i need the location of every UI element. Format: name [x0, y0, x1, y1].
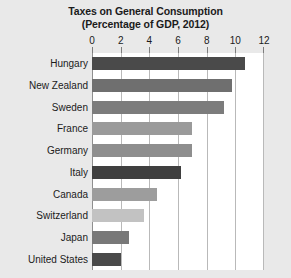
plot-wrap — [92, 53, 264, 270]
category-label-new-zealand: New Zealand — [0, 79, 88, 92]
bar-italy — [92, 166, 181, 179]
gridline-12 — [263, 53, 264, 270]
plot-area — [92, 53, 264, 270]
bar-chart-figure: Taxes on General Consumption (Percentage… — [0, 0, 291, 278]
x-tick-label-4: 4 — [147, 35, 153, 47]
bar-sweden — [92, 101, 224, 114]
category-label-germany: Germany — [0, 144, 88, 157]
category-label-united-states: United States — [0, 253, 88, 266]
bar-switzerland — [92, 209, 144, 222]
category-label-canada: Canada — [0, 188, 88, 201]
chart-subtitle: (Percentage of GDP, 2012) — [0, 18, 291, 31]
x-tick-label-10: 10 — [230, 35, 241, 47]
gridline-10 — [235, 53, 236, 270]
x-tick-label-0: 0 — [89, 35, 95, 47]
category-label-switzerland: Switzerland — [0, 209, 88, 222]
x-tick-label-2: 2 — [118, 35, 124, 47]
x-tick-label-6: 6 — [175, 35, 181, 47]
x-axis-tick-labels: 024681012 — [92, 35, 264, 47]
category-label-japan: Japan — [0, 231, 88, 244]
category-label-italy: Italy — [0, 166, 88, 179]
bar-new-zealand — [92, 79, 232, 92]
chart-title-block: Taxes on General Consumption (Percentage… — [0, 5, 291, 31]
category-axis-labels: HungaryNew ZealandSwedenFranceGermanyIta… — [0, 53, 88, 270]
bar-japan — [92, 231, 129, 244]
bar-united-states — [92, 253, 121, 266]
category-label-france: France — [0, 122, 88, 135]
x-tick-label-8: 8 — [204, 35, 210, 47]
bar-france — [92, 122, 192, 135]
x-tick-label-12: 12 — [258, 35, 269, 47]
bar-germany — [92, 144, 192, 157]
category-label-hungary: Hungary — [0, 57, 88, 70]
chart-title: Taxes on General Consumption — [0, 5, 291, 18]
category-label-sweden: Sweden — [0, 101, 88, 114]
bar-hungary — [92, 57, 245, 70]
bar-canada — [92, 188, 157, 201]
